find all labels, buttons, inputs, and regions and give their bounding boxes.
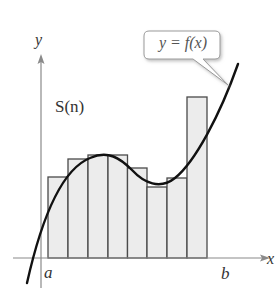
rectangle-8 xyxy=(187,97,207,258)
rectangle-3 xyxy=(88,155,108,258)
rectangle-4 xyxy=(108,155,128,258)
rectangle-6 xyxy=(147,187,167,258)
function-callout-label: y = f(x) xyxy=(148,35,218,51)
y-axis-label: y xyxy=(35,32,42,48)
riemann-sum-diagram: y x a b S(n) y = f(x) xyxy=(0,0,280,294)
rectangle-5 xyxy=(128,168,148,258)
rectangle-7 xyxy=(167,178,187,258)
upper-sum-label: S(n) xyxy=(55,98,84,115)
upper-bound-label: b xyxy=(221,265,230,282)
lower-bound-label: a xyxy=(44,264,53,281)
x-axis-label: x xyxy=(267,251,274,267)
upper-sum-rectangles xyxy=(48,97,207,258)
